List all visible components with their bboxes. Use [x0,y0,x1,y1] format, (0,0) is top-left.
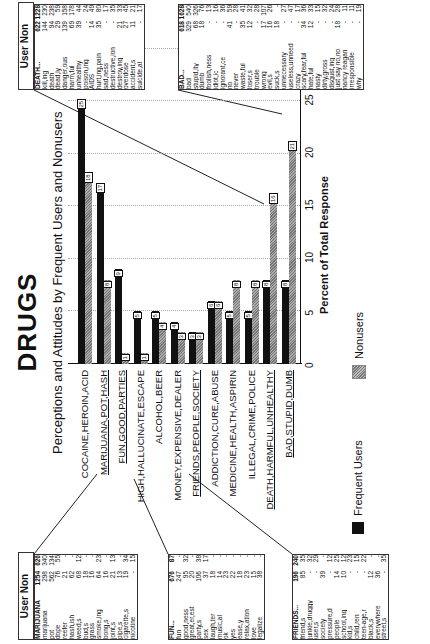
bar-value-label: 5 [133,312,142,319]
user-count-cell: 12 [247,21,254,37]
term-cell: useless,unneed [288,37,295,89]
nonuser-count-cell: - [368,555,375,571]
category-label: DEATH,HARMFUL,UNHEALTHY [264,370,275,510]
term-cell: danger,ous [62,37,69,89]
term-cell: pot [49,587,56,639]
nonuser-count-cell: - [217,555,224,571]
term-cell: no [227,37,234,89]
term-cell: bad [186,37,193,89]
table-row: smoke,ing6423 [96,555,103,639]
term-cell: why [356,37,363,89]
legend-label-nonusers: Nonusers [353,312,365,359]
term-cell: black,s [368,587,375,639]
table-row: why-19 [356,5,363,89]
table-row: FUN...67687 [169,555,176,639]
nonuser-count-cell: - [62,555,69,571]
term-cell: nancy reagan [342,37,349,89]
legend-users: Frequent Users [352,440,364,534]
term-cell: grass [89,587,96,639]
bar-value-label: 4 [158,323,167,330]
table-row: reefer21- [62,555,69,639]
term-cell: dumb [199,37,206,89]
term-cell: FUN... [169,587,176,639]
nonuser-count-cell: - [83,555,90,571]
table-row: great,er,est20- [189,555,196,639]
table-row: sad,ness-17 [103,5,110,89]
nonuser-count-cell: - [223,555,230,571]
term-cell: AIDS [89,37,96,89]
bar-value-label: 8 [251,281,260,288]
table-row: no4159 [227,5,234,89]
nonuser-count-cell: - [230,555,237,571]
table-row: FRIENDS...196240 [293,555,300,639]
user-count-cell: 18 [335,21,342,37]
table-row: joint,s2113 [110,555,117,639]
term-cell: relax,ation [244,587,251,639]
table-row: weed,s6812 [76,555,83,639]
term-cell: DEATH... [35,37,42,89]
table-row: relax,ation23- [244,555,251,639]
bar-nonusers [252,280,259,364]
bar-value-label: 16 [269,193,278,204]
term-cell: friend,s [300,587,307,639]
table-row: kill,ing144230 [42,5,49,89]
term-cell: destructive,ion [110,37,117,89]
term-cell: unnecessary [281,37,288,89]
x-tick-label: 5 [304,310,315,316]
bar-value-label: 1 [140,354,149,361]
table-row: scary,fear,ful3436 [301,5,308,89]
user-count-cell: 36 [375,571,382,587]
table-row: party,s10638 [196,555,203,639]
term-cell: laugh,ter [210,587,217,639]
term-cell: user,s [313,587,320,639]
nonuser-count-cell: - [251,555,258,571]
table-row: grass16- [89,555,96,639]
category-label: MARIJUANA,POT,HASH [98,370,109,475]
user-count-cell: 38 [257,571,264,587]
table-row: danger,ous139158 [62,5,69,89]
user-count-cell: - [381,571,388,587]
nonuser-count-cell: 23 [96,555,103,571]
term-cell: foolish,ness [206,37,213,89]
user-count-cell: 41 [227,21,234,37]
term-cell: overdose [123,37,130,89]
user-count-cell: - [137,21,144,37]
term-cell: ignorant,ce [220,37,227,89]
table-row: death94238 [49,5,56,89]
term-cell: bong,s [103,587,110,639]
gridline [68,100,300,102]
category-label: MEDICINE,HEALTH,ASPIRIN [227,370,238,497]
user-count-cell: - [130,571,137,587]
x-tick-label: 0 [304,362,315,368]
term-cell: loser,s [247,37,254,89]
term-cell: never [233,37,240,89]
user-count-cell: 18 [274,21,281,37]
table-row: disgust,ing-24 [329,5,336,89]
table-row: love15- [251,555,258,639]
table-row: BAD...6181628 [179,5,186,89]
table-row: just say no,no1828 [335,5,342,89]
nonuser-count-cell: 35 [381,555,388,571]
table-row: bong,s16- [103,555,110,639]
user-count-cell: 19 [123,571,130,587]
table-row: cigarette,s1934 [123,555,130,639]
table-fun: FUN...67687fun247-good,ness9532great,er,… [168,554,265,640]
category-label: ILLEGAL,CRIME,POLICE [246,370,257,479]
user-count-cell: - [342,21,349,37]
nonuser-count-cell: - [257,555,264,571]
bar-frequent-users [208,301,215,364]
bar-value-label: 21 [288,141,297,152]
term-cell: destroy,ing [117,37,124,89]
table-row: accident,s1121 [130,5,137,89]
table-row: junkie,druggy-32 [307,555,314,639]
user-count-cell: 35 [96,21,103,37]
bar-frequent-users [78,102,85,365]
table-row: unhealthy3944 [76,5,83,89]
term-cell: crazy [295,37,302,89]
table-row: evil,s1626 [267,5,274,89]
term-cell: child,ren [354,587,361,639]
bar-value-label: 3 [195,333,204,340]
bar-frequent-users [115,270,122,365]
table-row: dead,ly2959 [55,5,62,89]
user-count-cell: - [213,21,220,37]
